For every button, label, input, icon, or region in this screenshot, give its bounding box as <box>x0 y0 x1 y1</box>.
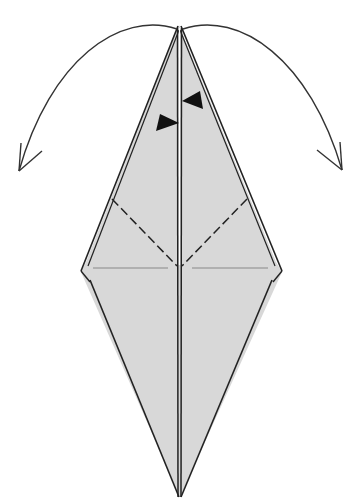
center-line-left <box>178 28 179 497</box>
center-line-right <box>181 28 182 497</box>
origami-diagram <box>0 0 358 500</box>
paper-model <box>81 25 282 497</box>
